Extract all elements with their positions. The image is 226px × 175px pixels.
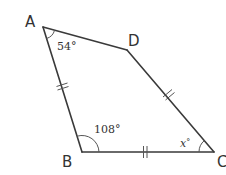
vertex-label-c: C bbox=[217, 153, 226, 171]
vertex-label-a: A bbox=[25, 13, 36, 31]
angle-label-b: 108° bbox=[94, 123, 121, 136]
angle-label-c: x° bbox=[180, 137, 190, 150]
angle-arc-c bbox=[199, 141, 204, 152]
degree-symbol: ° bbox=[186, 137, 190, 146]
vertex-label-b: B bbox=[62, 153, 72, 171]
quadrilateral-diagram: A D B C 54° 108° x° bbox=[0, 0, 226, 175]
angle-arc-b bbox=[77, 135, 99, 152]
vertex-label-d: D bbox=[128, 32, 140, 50]
angle-arc-a bbox=[47, 30, 55, 38]
edge-cd bbox=[127, 50, 214, 152]
edge-da bbox=[43, 27, 127, 50]
angle-label-a: 54° bbox=[57, 40, 77, 53]
